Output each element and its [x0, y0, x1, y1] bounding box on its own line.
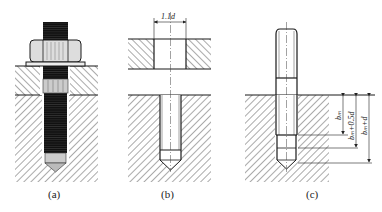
bolt-thread-engaged [44, 93, 67, 153]
caption-c: (c) [306, 188, 319, 201]
dimension-label-clearance: 1.1d [161, 12, 176, 21]
caption-a: (a) [48, 188, 61, 201]
panel-b: 1.1d (b) [128, 12, 211, 201]
hex-nut [30, 40, 81, 62]
dimension-bm-plus-half-d: bₘ+0.5d [347, 111, 356, 140]
clearance-hole [154, 39, 186, 69]
washer [26, 62, 85, 66]
bolt-thread-top [43, 22, 68, 40]
dimension-bm-plus-d: bₘ+d [360, 116, 369, 135]
panel-a: (a) [15, 22, 98, 201]
fastener-diagram: (a) 1.1d (b) [0, 0, 382, 212]
dimension-bm: bₘ [334, 111, 343, 120]
panel-c: bₘ bₘ+0.5d bₘ+d (c) [245, 22, 375, 201]
caption-b: (b) [161, 188, 174, 201]
